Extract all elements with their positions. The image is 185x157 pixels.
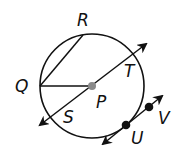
label-S: S xyxy=(63,109,74,126)
point-U xyxy=(122,121,131,130)
label-U: U xyxy=(131,130,143,147)
label-V: V xyxy=(158,110,170,127)
geometry-figure: R Q P T S U V xyxy=(0,0,185,157)
label-R: R xyxy=(77,12,89,29)
center-point-P xyxy=(88,82,96,90)
point-V xyxy=(145,103,154,112)
label-P: P xyxy=(96,94,106,111)
label-T: T xyxy=(124,63,134,80)
label-Q: Q xyxy=(15,78,28,95)
